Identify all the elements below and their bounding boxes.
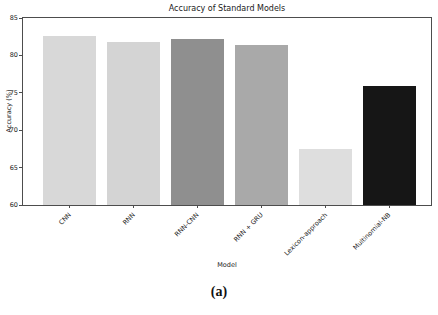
bar-chart-figure: Accuracy of Standard Models Accuracy (%)… (0, 0, 438, 315)
y-tick-mark (19, 205, 22, 206)
bar-cnn (43, 36, 96, 205)
bar-lexicon-approach (299, 149, 352, 205)
y-tick-label: 85 (0, 14, 18, 22)
y-tick-label: 80 (0, 51, 18, 59)
bar-rnn-gru (235, 45, 288, 205)
x-tick-label-rnn-cnn: RNN-CNN (173, 211, 200, 238)
x-tick-label-lexicon-approach: Lexicon-approach (282, 211, 328, 257)
y-tick-mark (19, 18, 22, 19)
x-tick-mark (389, 205, 390, 208)
y-tick-label: 65 (0, 164, 18, 172)
x-tick-mark (261, 205, 262, 208)
y-tick-label: 70 (0, 126, 18, 134)
x-tick-mark (197, 205, 198, 208)
figure-caption: (a) (0, 284, 438, 300)
chart-title: Accuracy of Standard Models (23, 4, 431, 14)
y-tick-label: 60 (0, 201, 18, 209)
bar-multinomial-nb (363, 86, 416, 205)
x-tick-label-rnn: RNN (121, 211, 137, 227)
x-tick-mark (69, 205, 70, 208)
x-tick-label-rnn-gru: RNN + GRU (232, 211, 265, 244)
y-tick-mark (19, 130, 22, 131)
y-tick-mark (19, 92, 22, 93)
y-tick-mark (19, 55, 22, 56)
y-tick-label: 75 (0, 89, 18, 97)
y-tick-mark (19, 167, 22, 168)
x-tick-mark (133, 205, 134, 208)
x-tick-label-cnn: CNN (57, 211, 73, 227)
x-tick-mark (325, 205, 326, 208)
bar-rnn (107, 42, 160, 205)
x-tick-label-multinomial-nb: Multinomial-NB (352, 211, 393, 252)
bar-rnn-cnn (171, 39, 224, 205)
plot-area (22, 17, 432, 206)
x-axis-label: Model (23, 261, 431, 269)
